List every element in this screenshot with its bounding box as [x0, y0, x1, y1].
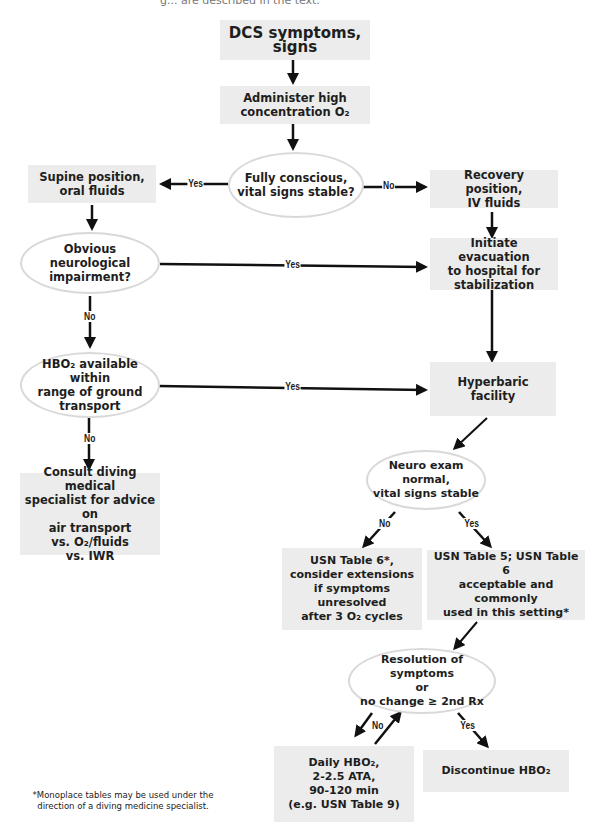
node-recovery: Recovery position, IV fluids: [430, 170, 558, 208]
dcs-flowchart: g... are described in the text.: [0, 0, 596, 837]
edge-label-no: No: [378, 518, 391, 529]
node-usn-table5: USN Table 5; USN Table 6 acceptable and …: [427, 550, 585, 620]
flowchart-arrows: [0, 0, 596, 837]
edge-label-yes: Yes: [459, 720, 475, 731]
edge-label-yes: Yes: [463, 518, 479, 529]
node-resolution: Resolution of symptoms or no change ≥ 2n…: [348, 648, 496, 714]
node-consult: Consult diving medical specialist for ad…: [20, 473, 160, 555]
edge-label-yes: Yes: [284, 381, 300, 392]
node-fully-conscious: Fully conscious, vital signs stable?: [228, 152, 364, 218]
edge-label-no: No: [83, 433, 96, 444]
node-usn-table6: USN Table 6*, consider extensions if sym…: [282, 548, 422, 630]
node-neuro-impairment: Obvious neurological impairment?: [20, 232, 160, 294]
edge-label-no: No: [371, 720, 384, 731]
edge-label-no: No: [382, 180, 395, 191]
edge-label-yes: Yes: [187, 178, 203, 189]
node-administer-o2: Administer high concentration O₂: [220, 86, 370, 124]
node-evacuation: Initiate evacuation to hospital for stab…: [430, 238, 558, 290]
edge-label-no: No: [83, 311, 96, 322]
node-hyperbaric-facility: Hyperbaric facility: [430, 362, 556, 416]
node-hbo2-available: HBO₂ available within range of ground tr…: [20, 352, 160, 418]
node-start: DCS symptoms, signs: [220, 20, 370, 60]
node-daily-hbo2: Daily HBO₂, 2-2.5 ATA, 90-120 min (e.g. …: [274, 746, 414, 822]
footnote: *Monoplace tables may be used under the …: [28, 790, 218, 812]
node-supine: Supine position, oral fluids: [28, 165, 156, 203]
node-neuro-exam: Neuro exam normal, vital signs stable: [366, 450, 486, 510]
node-discontinue: Discontinue HBO₂: [423, 750, 569, 792]
edge-label-yes: Yes: [284, 259, 300, 270]
